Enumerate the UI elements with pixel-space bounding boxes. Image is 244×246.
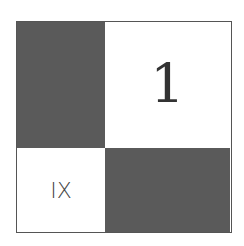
roman-numeral-label: IX: [50, 178, 72, 203]
number-label: 1: [150, 58, 184, 112]
grid-board: 1 IX: [16, 21, 232, 233]
cell-bottom-left: IX: [17, 148, 105, 232]
cell-top-left-dark: [17, 22, 105, 148]
cell-bottom-right-dark: [105, 148, 230, 232]
cell-top-right: 1: [105, 22, 230, 148]
